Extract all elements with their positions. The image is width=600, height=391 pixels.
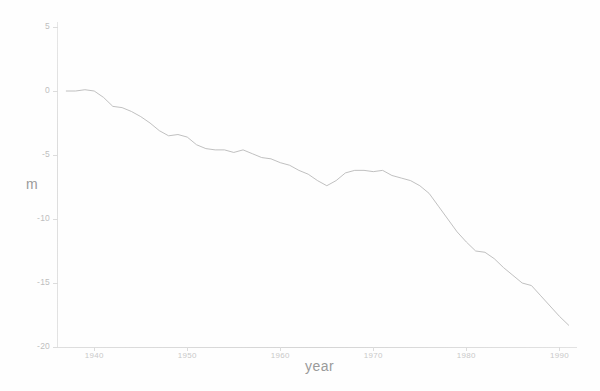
series-line-cumulative-mass-balance bbox=[66, 90, 568, 326]
chart-figure: 50-5-10-15-20 194019501960197019801990 m… bbox=[0, 0, 600, 391]
plot-area bbox=[0, 0, 600, 391]
